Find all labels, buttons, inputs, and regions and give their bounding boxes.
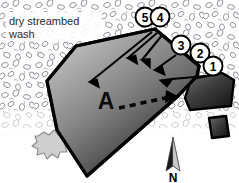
callout-5-label: 5 [142, 11, 149, 25]
wash-label-line-1: dry streambed [9, 15, 79, 27]
callout-1-label: 1 [210, 60, 217, 74]
feature-a-label: A [98, 88, 115, 114]
wash-label-line-2: wash [8, 28, 35, 40]
callout-2-label: 2 [197, 47, 204, 61]
site-sketch-map: dry streambed wash [0, 0, 239, 183]
callout-3[interactable]: 3 [172, 36, 191, 55]
callout-3-label: 3 [178, 39, 185, 53]
north-arrow-label: N [169, 171, 178, 183]
callout-4-label: 4 [157, 11, 164, 25]
map-canvas: dry streambed wash [0, 0, 239, 183]
tertiary-polygon [209, 116, 229, 138]
callout-4[interactable]: 4 [151, 8, 170, 27]
callout-1[interactable]: 1 [204, 57, 223, 76]
